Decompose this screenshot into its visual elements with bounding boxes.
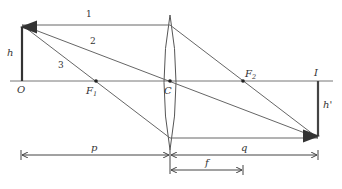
focal-point-1-dot xyxy=(94,79,98,83)
focal-length-label: f xyxy=(204,157,211,168)
image-height-label: h' xyxy=(323,99,332,110)
image-base-label: I xyxy=(313,67,319,78)
object-height-label: h xyxy=(7,47,13,58)
focal-point-2-dot xyxy=(241,79,245,83)
ray-1-label: 1 xyxy=(86,9,92,19)
image-distance-label: q xyxy=(241,142,247,153)
object-base-label: O xyxy=(17,84,25,95)
center-dot xyxy=(168,79,172,83)
center-label: C xyxy=(164,85,172,96)
lens-ray-diagram: 1 2 3 h O F1 C F2 I h' p q f xyxy=(0,0,342,189)
ray-2-label: 2 xyxy=(90,36,96,46)
focal-point-1-label: F1 xyxy=(85,85,97,98)
object-distance-label: p xyxy=(91,142,98,153)
ray-3-label: 3 xyxy=(58,60,64,70)
focal-point-2-label: F2 xyxy=(244,68,256,81)
